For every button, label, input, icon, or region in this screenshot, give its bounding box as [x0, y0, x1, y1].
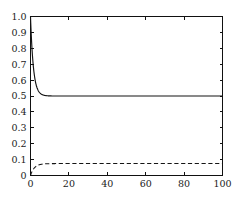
- x-tick-label: 60: [140, 178, 152, 189]
- x-tick-label: 20: [63, 178, 75, 189]
- x-tick-label: 80: [178, 178, 190, 189]
- y-tick-label: 0.4: [11, 106, 26, 117]
- x-tick-label: 0: [27, 178, 33, 189]
- x-tick-label: 100: [213, 178, 231, 189]
- y-tick-label: 0.5: [11, 90, 26, 101]
- y-tick-label: 0.8: [11, 43, 26, 54]
- y-tick-label: 0.3: [11, 122, 26, 133]
- y-tick-label: 0.2: [11, 138, 26, 149]
- y-tick-label: 0: [20, 170, 26, 181]
- y-tick-label: 1.0: [11, 11, 26, 22]
- x-tick-label: 40: [101, 178, 113, 189]
- y-tick-label: 0.1: [11, 154, 26, 165]
- chart-figure-root: 020406080100 00.10.20.30.40.50.60.70.80.…: [0, 0, 240, 200]
- line-chart: 020406080100 00.10.20.30.40.50.60.70.80.…: [0, 0, 240, 200]
- y-tick-label: 0.6: [11, 75, 26, 86]
- y-tick-label: 0.7: [11, 59, 26, 70]
- chart-background: [0, 0, 240, 200]
- y-tick-label: 0.9: [11, 27, 26, 38]
- y-axis-tick-labels: 00.10.20.30.40.50.60.70.80.91.0: [11, 11, 26, 181]
